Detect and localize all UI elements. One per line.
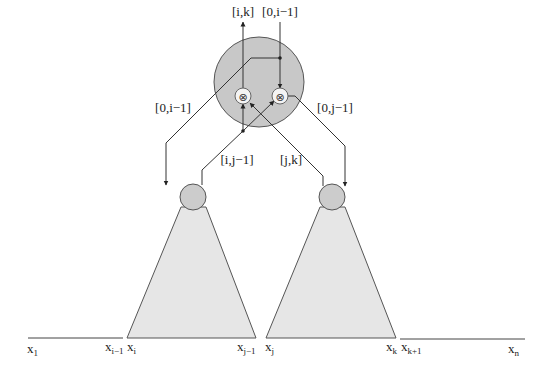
tree-combine-diagram: ⊗ ⊗ [i,k] [0,i−1] [0,i−1] [0,j−1] [i,j−1… (0, 0, 539, 371)
right-operator-symbol: ⊗ (275, 91, 284, 104)
leaf-label-x1: x1 (27, 341, 38, 358)
leaf-label-xk+1: xk+1 (401, 339, 422, 356)
right-operator: ⊗ (272, 88, 288, 104)
right-subtree-triangle (266, 207, 396, 338)
junction-dot-bottom (241, 129, 245, 133)
label-right-subtree-range: [j,k] (280, 152, 302, 167)
label-input-prefix: [0,i−1] (262, 4, 298, 19)
left-operator-symbol: ⊗ (238, 91, 247, 104)
leaf-label-xi: xi (127, 339, 137, 356)
leaf-label-xi-1: xi−1 (105, 339, 124, 356)
label-left-subtree-range: [i,j−1] (221, 152, 254, 167)
left-subtree-triangle (127, 207, 256, 338)
left-subtree-root-node (180, 184, 206, 210)
label-left-prefix: [0,i−1] (155, 100, 191, 115)
right-subtree-root-node (319, 184, 345, 210)
leaf-label-xk: xk (386, 339, 398, 356)
leaf-label-xn: xn (508, 341, 520, 358)
junction-dot-top (278, 56, 282, 60)
leaf-label-xj-1: xj−1 (237, 339, 256, 356)
label-output-range: [i,k] (232, 4, 254, 19)
label-right-prefix: [0,j−1] (317, 100, 353, 115)
left-operator: ⊗ (235, 88, 251, 104)
leaf-label-xj: xj (265, 339, 274, 356)
